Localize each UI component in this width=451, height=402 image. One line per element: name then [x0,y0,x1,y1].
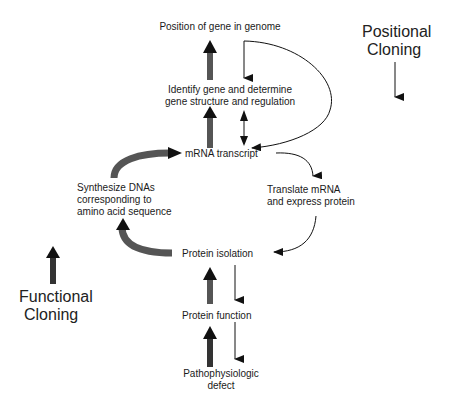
node-protein-isolation: Protein isolation [182,248,253,260]
node-identify-gene: Identify gene and determine gene structu… [155,84,305,108]
label-functional-line1: Functional [19,288,93,306]
node-translate-line1: Translate mRNA [267,184,355,196]
node-synthesize-line3: amino acid sequence [77,206,172,218]
thick-arrow-patho-to-function [203,326,217,367]
thick-arrow-mrna-to-identify [203,106,217,148]
thick-arrow-identify-to-position [203,40,217,80]
node-pathophysiologic-defect: Pathophysiologic defect [176,368,266,392]
functional-cloning-arrow [46,246,60,284]
node-patho-line2: defect [176,380,266,392]
label-positional-line1: Positional [362,23,431,41]
thick-curve-synthesize-to-mrna [114,147,182,178]
node-patho-line1: Pathophysiologic [176,368,266,380]
label-functional-cloning: Functional Cloning [19,288,93,324]
node-identify-gene-line2: gene structure and regulation [155,96,305,108]
curve-arrow-mrna-to-translate [276,153,313,176]
curve-arrow-translate-to-protein [274,216,316,252]
label-positional-line2: Cloning [362,41,431,59]
thick-arrow-function-to-isolation [203,267,217,304]
node-protein-function: Protein function [182,310,252,322]
node-synthesize-line2: corresponding to [77,194,172,206]
thick-curve-protein-to-synthesize [116,218,172,253]
node-synthesize-line1: Synthesize DNAs [77,182,172,194]
node-identify-gene-line1: Identify gene and determine [155,84,305,96]
cloning-diagram: Position of gene in genome Identify gene… [0,0,451,402]
node-translate-line2: and express protein [267,196,355,208]
arrows-layer [0,0,451,402]
double-arrow-identify-mrna [240,110,248,146]
label-functional-line2: Cloning [19,306,93,324]
node-translate-mrna: Translate mRNA and express protein [267,184,355,208]
node-mrna-transcript: mRNA transcript [185,148,258,160]
label-positional-cloning: Positional Cloning [362,23,431,59]
node-synthesize-dnas: Synthesize DNAs corresponding to amino a… [77,182,172,218]
node-position-of-gene: Position of gene in genome [155,21,285,33]
